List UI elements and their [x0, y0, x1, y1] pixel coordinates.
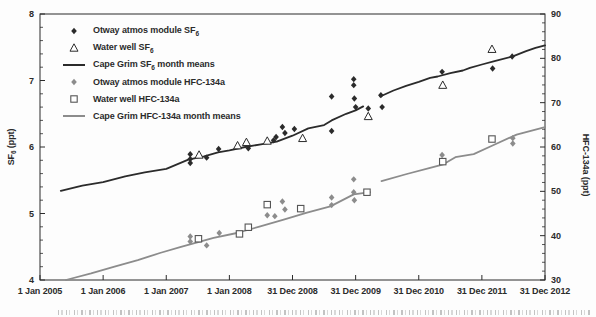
triangle-marker [195, 151, 203, 158]
triangle-marker [299, 134, 307, 141]
square-marker [440, 158, 446, 164]
x-tick-label: 31 Dec 2010 [394, 286, 445, 296]
series-water-well-hfc-134a [195, 136, 495, 242]
diamond-marker [379, 104, 385, 110]
diamond-marker [352, 197, 358, 203]
square-marker [264, 201, 270, 207]
y-axis-right: 30405060708090 [540, 9, 561, 285]
square-marker [298, 205, 304, 211]
diamond-marker [216, 230, 222, 236]
diamond-marker [282, 130, 288, 136]
diamond-filled-legend-icon [60, 25, 90, 37]
y-left-tick-label: 5 [29, 209, 34, 219]
month-means-line [66, 192, 370, 280]
triangle-marker [263, 137, 271, 144]
diamond-marker [352, 95, 358, 101]
diamond-marker [510, 140, 516, 146]
legend-item-water-well-sf6: Water well SF6 [60, 39, 241, 56]
y-left-tick-label: 6 [29, 142, 34, 152]
legend-label: Otway atmos module HFC-134a [93, 77, 225, 87]
triangle-open-legend-icon [60, 42, 90, 54]
x-tick-label: 31 Dec 2012 [520, 286, 571, 296]
y-right-tick-label: 30 [551, 275, 561, 285]
x-tick-label: 1 Jan 2005 [18, 286, 63, 296]
legend-item-otway-atmos-module-sf6: Otway atmos module SF6 [60, 22, 241, 39]
y-right-tick-label: 40 [551, 231, 561, 241]
triangle-marker [439, 81, 447, 88]
legend-label: Cape Grim SF6 month means [93, 59, 215, 71]
legend-label: Otway atmos module SF6 [93, 25, 199, 37]
legend-item-water-well-hfc-134a: Water well HFC-134a [60, 90, 241, 107]
legend-label: Cape Grim HFC-134a month means [93, 111, 241, 121]
x-axis: 1 Jan 20051 Jan 20061 Jan 20071 Jan 2008… [18, 275, 571, 296]
y-left-tick-label: 8 [29, 9, 34, 19]
diamond-marker [282, 206, 288, 212]
y-right-axis-title: HFC-134a (ppt) [581, 134, 591, 197]
y-left-tick-label: 4 [29, 275, 34, 285]
x-tick-label: 31 Dec 2011 [457, 286, 507, 296]
line-legend-icon [60, 110, 90, 122]
legend-item-otway-atmos-module-hfc-134a: Otway atmos module HFC-134a [60, 73, 241, 90]
diamond-marker [71, 78, 77, 84]
y-right-tick-label: 90 [551, 9, 561, 19]
diamond-marker [351, 176, 357, 182]
diamond-marker [439, 152, 445, 158]
square-marker [236, 231, 242, 237]
y-axis-left: 45678 [29, 9, 45, 285]
x-tick-label: 31 Dec 2009 [330, 286, 381, 296]
diamond-marker [490, 65, 496, 71]
month-means-line [382, 127, 546, 181]
y-right-tick-label: 60 [551, 142, 561, 152]
chart-legend: Otway atmos module SF6Water well SF6Cape… [60, 22, 241, 124]
triangle-marker [70, 43, 78, 50]
square-marker [364, 189, 370, 195]
month-means-line [380, 45, 545, 96]
square-marker [71, 95, 77, 101]
y-left-tick-label: 7 [29, 76, 34, 86]
diamond-marker [329, 128, 335, 134]
legend-item-cape-grim-sf6-month-means: Cape Grim SF6 month means [60, 56, 241, 73]
diamond-marker [272, 213, 278, 219]
line-legend-icon [60, 59, 90, 71]
x-tick-label: 31 Dec 2008 [267, 286, 318, 296]
diamond-marker [509, 53, 515, 59]
diamond-marker [351, 82, 357, 88]
diamond-marker [329, 93, 335, 99]
diamond-marker [365, 105, 371, 111]
square-marker [245, 224, 251, 230]
legend-label: Water well SF6 [93, 42, 153, 54]
cropped-caption-text [58, 310, 592, 315]
diamond-marker [378, 92, 384, 98]
diamond-filled-legend-icon [60, 76, 90, 88]
triangle-marker [242, 138, 250, 145]
legend-label: Water well HFC-134a [93, 94, 179, 104]
x-tick-label: 1 Jan 2006 [81, 286, 126, 296]
y-left-axis-title: SF6 (ppt) [6, 129, 17, 166]
triangle-marker [234, 141, 242, 148]
diamond-marker [264, 212, 270, 218]
square-marker [195, 236, 201, 242]
diamond-marker [187, 233, 193, 239]
triangle-marker [364, 112, 372, 119]
diamond-marker [329, 194, 335, 200]
y-right-tick-label: 50 [551, 186, 561, 196]
diamond-marker [351, 76, 357, 82]
diamond-marker [280, 198, 286, 204]
x-tick-label: 1 Jan 2008 [207, 286, 252, 296]
y-right-tick-label: 80 [551, 53, 561, 63]
square-marker [489, 136, 495, 142]
scientific-figure: 1 Jan 20051 Jan 20061 Jan 20071 Jan 2008… [0, 0, 596, 317]
diamond-marker [204, 242, 210, 248]
triangle-marker [488, 45, 496, 52]
square-open-legend-icon [60, 93, 90, 105]
series-cape-grim-hfc-134a-month-means [66, 127, 545, 280]
x-tick-label: 1 Jan 2007 [144, 286, 189, 296]
diamond-marker [292, 126, 298, 132]
diamond-marker [187, 151, 193, 157]
diamond-marker [71, 27, 77, 33]
diamond-marker [280, 124, 286, 130]
legend-item-cape-grim-hfc-134a-month-means: Cape Grim HFC-134a month means [60, 107, 241, 124]
y-right-tick-label: 70 [551, 98, 561, 108]
